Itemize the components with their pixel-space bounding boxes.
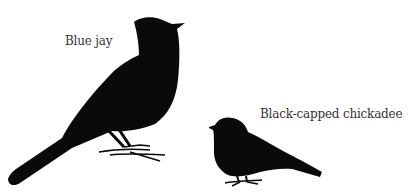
bird-size-comparison: Blue jay Black-capped chickadee	[0, 0, 413, 194]
bird-silhouettes	[0, 0, 413, 194]
blue-jay-label: Blue jay	[65, 34, 112, 48]
chickadee-silhouette	[209, 117, 322, 186]
chickadee-label: Black-capped chickadee	[260, 107, 402, 121]
